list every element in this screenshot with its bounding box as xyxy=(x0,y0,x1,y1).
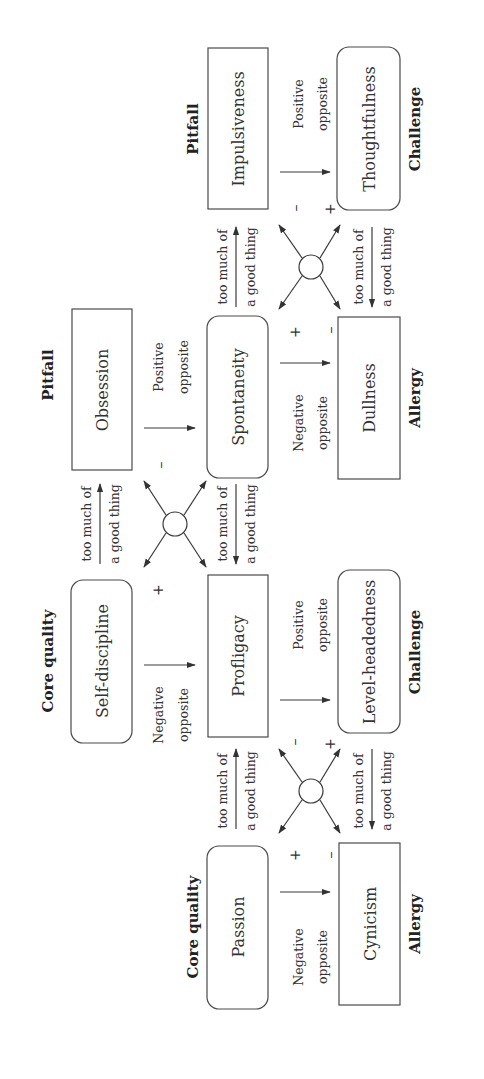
node-label: Self-discipline xyxy=(93,604,112,718)
minus-sign: – xyxy=(287,205,303,212)
label-negative: Negative xyxy=(291,928,306,985)
header-challenge-1: Challenge xyxy=(406,610,424,694)
label-a-good-thing: a good thing xyxy=(243,227,258,307)
label-negative: Negative xyxy=(291,394,306,451)
label-too-much-of: too much of xyxy=(79,485,94,562)
node-spontaneity: Spontaneity xyxy=(207,316,268,478)
label-a-good-thing: a good thing xyxy=(243,484,258,564)
node-label: Obsession xyxy=(93,349,112,432)
label-opposite: opposite xyxy=(176,688,191,742)
node-level-headedness: Level-headedness xyxy=(338,570,400,733)
header-pitfall-2: Pitfall xyxy=(184,103,202,155)
plus-sign: + xyxy=(322,738,338,750)
label-opposite: opposite xyxy=(315,77,330,131)
label-a-good-thing: a good thing xyxy=(379,751,394,831)
node-profligacy: Profligacy xyxy=(208,575,268,737)
header-challenge-2: Challenge xyxy=(406,87,424,171)
label-opposite: opposite xyxy=(315,598,330,652)
node-obsession: Obsession xyxy=(72,309,132,470)
core-quadrant-diagram: Core quality Passion Negative opposite +… xyxy=(0,0,484,1079)
minus-sign: – xyxy=(152,462,168,469)
node-label: Thoughtfulness xyxy=(360,66,379,191)
node-label: Dullness xyxy=(360,363,379,433)
label-too-much-of: too much of xyxy=(215,228,230,305)
label-too-much-of: too much of xyxy=(215,752,230,829)
node-label: Profligacy xyxy=(229,615,248,697)
cross-connector-1 xyxy=(279,749,340,833)
label-a-good-thing: a good thing xyxy=(243,751,258,831)
label-opposite: opposite xyxy=(315,396,330,450)
diagram-canvas: Core quality Passion Negative opposite +… xyxy=(0,0,484,1079)
node-label: Passion xyxy=(229,896,248,957)
plus-sign: + xyxy=(287,849,303,861)
plus-sign: + xyxy=(322,203,338,215)
label-positive: Positive xyxy=(151,342,166,391)
header-pitfall-1: Pitfall xyxy=(39,349,57,401)
label-a-good-thing: a good thing xyxy=(379,227,394,307)
header-allergy-1: Allergy xyxy=(406,893,424,955)
node-dullness: Dullness xyxy=(338,317,400,479)
minus-sign: – xyxy=(322,852,338,859)
node-label: Spontaneity xyxy=(229,348,248,445)
plus-sign: + xyxy=(150,584,166,596)
label-too-much-of: too much of xyxy=(351,752,366,829)
node-label: Cynicism xyxy=(361,887,380,961)
label-positive: Positive xyxy=(291,600,306,649)
label-opposite: opposite xyxy=(315,930,330,984)
cross-connector-2 xyxy=(144,481,206,567)
label-too-much-of: too much of xyxy=(351,228,366,305)
label-positive: Positive xyxy=(291,79,306,128)
node-impulsiveness: Impulsiveness xyxy=(208,48,268,209)
label-negative: Negative xyxy=(151,686,166,743)
minus-sign: – xyxy=(286,739,302,746)
node-cynicism: Cynicism xyxy=(339,843,400,1005)
label-a-good-thing: a good thing xyxy=(107,484,122,564)
header-core-quality-2: Core quality xyxy=(39,608,57,712)
node-thoughtfulness: Thoughtfulness xyxy=(337,47,400,210)
label-opposite: opposite xyxy=(176,340,191,394)
minus-sign: – xyxy=(322,327,338,334)
cross-connector-3 xyxy=(279,225,340,309)
plus-sign: + xyxy=(287,326,303,338)
label-too-much-of: too much of xyxy=(215,485,230,562)
node-passion: Passion xyxy=(207,846,268,1009)
node-self-discipline: Self-discipline xyxy=(71,580,132,743)
node-label: Impulsiveness xyxy=(229,71,248,186)
header-core-quality-1: Core quality xyxy=(184,874,202,978)
header-allergy-2: Allergy xyxy=(406,367,424,429)
node-label: Level-headedness xyxy=(360,580,379,725)
